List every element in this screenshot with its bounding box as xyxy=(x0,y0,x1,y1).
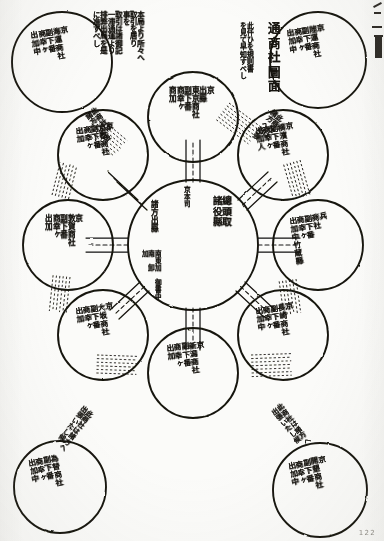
center-label-sub: 南東加 御書中 南 卸 加 xyxy=(140,250,160,294)
diagram-page: 通商社圖面 此仟ひを規則書 を見て早知すべし 本局より所々へ 取引を居り 事を … xyxy=(0,0,384,541)
satellite-label-n: 京 出縣 東京商社 副下番 商幸ヶ 商加 xyxy=(168,86,214,144)
center-label-top: 京本司 xyxy=(182,186,189,216)
top-left-annotation-block: 本局より所々へ 取引を居り 事を 取引は諸御記 一滞通運より 排弊出局を是 に准… xyxy=(92,10,144,76)
facing-page-edge-artifact xyxy=(368,0,384,72)
satellite-label-s: 京 新潟商社 副下番 商幸ヶ 出加 xyxy=(165,340,210,402)
satellite-label-w: 京 敦賀商社 副下番 商幸ヶ 出加 xyxy=(44,214,82,272)
page-title: 通商社圖面 xyxy=(266,22,279,88)
center-label-left: 諸方出縣 xyxy=(150,200,158,250)
title-note: 此仟ひを規則書 を見て早知すべし xyxy=(238,22,252,80)
page-number: 122 xyxy=(359,529,376,537)
center-label-right: 總頭取 諸役縣 xyxy=(212,196,231,282)
